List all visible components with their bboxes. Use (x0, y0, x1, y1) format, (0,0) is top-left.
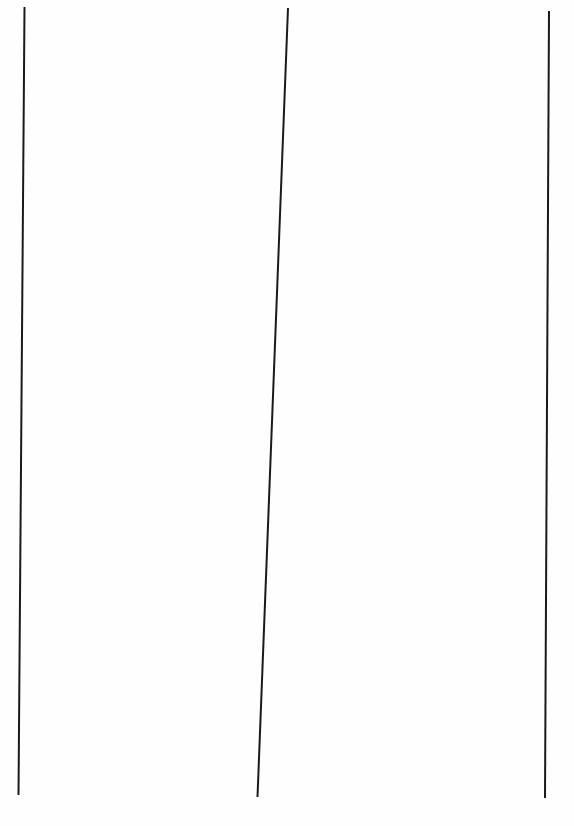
vertical-rule-right (545, 11, 549, 798)
ruled-page (0, 0, 574, 826)
vertical-rule-middle (258, 8, 289, 797)
vertical-rule-left (19, 7, 25, 795)
vertical-rules (0, 0, 574, 826)
